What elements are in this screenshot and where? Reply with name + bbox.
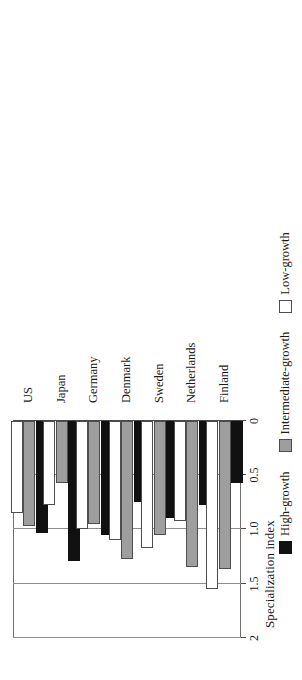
- legend-entry-low: Low-growth: [278, 232, 293, 313]
- category-label-germany: Germany: [86, 356, 101, 403]
- bar-sweden-inter: [154, 421, 166, 535]
- bar-us-low: [11, 421, 23, 513]
- axis-tick-label: 0.5: [247, 468, 262, 483]
- category-label-sweden: Sweden: [152, 363, 167, 403]
- legend-entry-inter: Intermediate-growth: [278, 332, 293, 453]
- axis-tick-label: 2: [247, 635, 262, 641]
- axis-tick-1.5: [241, 583, 246, 584]
- bar-sweden-low: [141, 421, 153, 548]
- legend-swatch-low: [279, 300, 292, 313]
- legend-label: Intermediate-growth: [278, 332, 293, 435]
- category-label-japan: Japan: [54, 375, 69, 403]
- bar-netherlands-inter: [186, 421, 198, 567]
- legend-swatch-high: [279, 541, 292, 554]
- gridline-2: [13, 637, 241, 638]
- bar-us-inter: [23, 421, 35, 526]
- axis-tick-label: 0: [247, 418, 262, 424]
- chart-legend: High-growthIntermediate-growthLow-growth: [278, 220, 293, 554]
- legend-entry-high: High-growth: [278, 471, 293, 554]
- legend-label: High-growth: [278, 471, 293, 536]
- bar-finland-low: [206, 421, 218, 589]
- axis-tick-2: [241, 637, 246, 638]
- category-label-denmark: Denmark: [119, 356, 134, 403]
- bar-denmark-inter: [121, 421, 133, 559]
- bar-finland-high: [231, 421, 243, 483]
- axis-tick-1.0: [241, 528, 246, 529]
- bar-finland-inter: [219, 421, 231, 569]
- rotated-figure-stage: 00.51.01.52 USJapanGermanyDenmarkSwedenN…: [0, 0, 302, 680]
- axis-tick-label: 1.5: [247, 577, 262, 592]
- legend-swatch-inter: [279, 439, 292, 452]
- category-label-finland: Finland: [217, 365, 232, 403]
- bar-japan-low: [43, 421, 55, 505]
- bar-denmark-low: [109, 421, 121, 540]
- legend-label: Low-growth: [278, 232, 293, 295]
- category-label-netherlands: Netherlands: [184, 343, 199, 403]
- bar-germany-low: [76, 421, 88, 530]
- axis-title: Specialization index: [262, 328, 278, 628]
- category-label-us: US: [21, 387, 36, 403]
- bar-netherlands-low: [174, 421, 186, 521]
- bar-chart: 00.51.01.52 USJapanGermanyDenmarkSwedenN…: [0, 0, 302, 680]
- bar-japan-inter: [56, 421, 68, 483]
- axis-tick-label: 1.0: [247, 522, 262, 537]
- bar-germany-inter: [88, 421, 100, 524]
